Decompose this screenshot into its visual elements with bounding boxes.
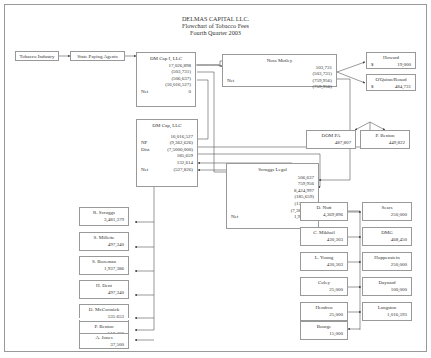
value: 15,000 (305, 330, 343, 337)
value: 37,500 (84, 342, 124, 349)
value: 430,303 (305, 236, 343, 243)
node-dom-pa: DOM PA 487,807 (306, 130, 356, 149)
node-tobacco-industry: Tobacco Industry (15, 51, 59, 61)
currency: $ (371, 83, 374, 90)
node-l-young: L. Young 430,303 (300, 252, 348, 271)
node-title: D. Nutt (305, 204, 343, 211)
node-dmg: DMG 468,450 (362, 227, 412, 246)
node-howard: Howard $19,000 (366, 52, 416, 69)
value: 250,000 (367, 261, 407, 268)
value: (503,731) (223, 71, 336, 78)
node-title: DM Cap I, LLC (137, 56, 195, 63)
node-oquinn-rosod: O'Quinn/Rosod $484,731 (366, 74, 416, 91)
node-c-mikhail: C. Mikhail 430,303 (300, 227, 348, 246)
node-noss-motley: Noss Motley 503,731 (503,731) Net(759,95… (222, 54, 337, 87)
value: 1,016,593 (367, 311, 407, 318)
node-hoppenstein: Hoppenstein 250,000 (362, 252, 412, 271)
row-label: Dist (141, 147, 149, 154)
node-title: S. Millette (84, 234, 124, 241)
node-title: Hoppenstein (367, 254, 407, 261)
value: 503,731 (223, 65, 336, 72)
value: 449,822 (365, 139, 405, 146)
value: 506,637 (227, 175, 318, 182)
node-title: P. Benton (365, 132, 405, 139)
node-title: DM Cap, LLC (137, 123, 197, 130)
title-company: DELMAS CAPITAL LLC. (0, 15, 431, 22)
value: 487,807 (311, 139, 351, 146)
node-p-benton-top: P. Benton 449,822 (360, 130, 410, 149)
node-langston: Langston 1,016,593 (362, 302, 412, 321)
node-label: Tobacco Industry (18, 53, 56, 60)
node-title: Langston (367, 304, 407, 311)
value: 497,340 (84, 241, 124, 248)
value: (759,956) (312, 78, 332, 85)
node-title: Noss Motley (223, 58, 336, 65)
value: 132,614 (177, 160, 193, 167)
row-label: Net (141, 167, 148, 174)
value: 25,000 (305, 311, 343, 318)
node-title: D. McCormick (84, 306, 124, 313)
value: 19,000 (397, 61, 411, 68)
node-state-paying-agents: State Paying Agents (70, 51, 125, 61)
value: 497,340 (84, 289, 124, 296)
value: (503,731) (137, 69, 195, 76)
spacer (79, 318, 129, 320)
node-title: Sears (367, 204, 407, 211)
node-title: C. Mikhail (305, 229, 343, 236)
node-title: DOM PA (311, 132, 351, 139)
node-title: L. Young (305, 254, 343, 261)
value: 468,450 (367, 236, 407, 243)
node-label: State Paying Agents (73, 53, 122, 60)
node-title: Coley (305, 279, 343, 286)
net-label: Net (141, 89, 148, 96)
net-value: 0 (189, 89, 192, 96)
row-label: NP (141, 140, 147, 147)
value: 430,303 (305, 261, 343, 268)
value: (506,637) (137, 76, 195, 83)
value: 484,731 (395, 83, 411, 90)
node-title: Daynard (367, 279, 407, 286)
node-title: DMG (367, 229, 407, 236)
node-r-scruggs: R. Scruggs 3,481,379 (79, 207, 129, 226)
node-sears: Sears 250,000 (362, 202, 412, 221)
value: (7,5000,000) (167, 147, 193, 154)
value: (9,362,626) (170, 140, 193, 147)
node-dm-cap-i: DM Cap I, LLC 17,026,898 (503,731) (506,… (136, 52, 196, 107)
node-title: P. Benton (84, 323, 124, 330)
node-title: Bourge (305, 323, 343, 330)
value: (185,659) (227, 194, 318, 201)
value: 185,659 (177, 153, 193, 160)
value: 759,956 (227, 181, 318, 188)
node-title: H. Dent (84, 282, 124, 289)
net-value: (759,956) (223, 84, 336, 91)
title-subtitle: Flowchart of Tobacco Fees (0, 22, 431, 29)
node-d-nutt: D. Nutt 4,369,896 (300, 202, 348, 221)
node-title: O'Quinn/Rosod (371, 76, 411, 83)
value: 1,937,386 (84, 265, 124, 272)
value: 100,000 (367, 286, 407, 293)
value: 3,481,379 (84, 216, 124, 223)
value: 25,000 (305, 286, 343, 293)
title-period: Fourth Quarter 2003 (0, 29, 431, 36)
value: 8,424,997 (227, 188, 318, 195)
node-s-millette: S. Millette 497,340 (79, 232, 129, 251)
node-coley: Coley 25,000 (300, 277, 348, 296)
node-dm-cap: DM Cap, LLC 16,016,527 NP(9,362,626) Dis… (136, 119, 198, 187)
node-title: Scruggs Legal (227, 167, 318, 174)
node-title: R. Scruggs (84, 209, 124, 216)
node-h-dent: H. Dent 497,340 (79, 280, 129, 299)
node-s-bozeman: S. Bozeman 1,937,386 (79, 256, 129, 275)
value: 250,000 (367, 211, 407, 218)
node-title: Howard (371, 54, 411, 61)
net-label: Net (231, 214, 238, 221)
value: 4,369,896 (305, 211, 343, 218)
node-bourge: Bourge 15,000 (300, 321, 348, 340)
node-title: Hendren (305, 304, 343, 311)
node-daynard: Daynard 100,000 (362, 277, 412, 296)
value: 16,016,527 (171, 134, 194, 141)
currency: $ (371, 61, 374, 68)
net-label: Net (227, 78, 234, 85)
node-a-jones: A. Jones 37,500 (79, 333, 129, 349)
node-hendren: Hendren 25,000 (300, 302, 348, 321)
value: (527,826) (173, 167, 193, 174)
